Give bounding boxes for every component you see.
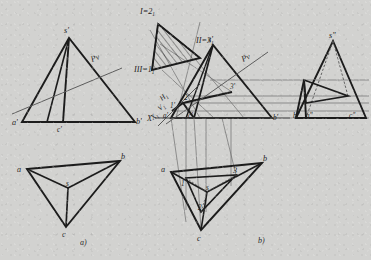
label-2-prime: 2' [184, 94, 190, 102]
label-b-prime-a: b' [136, 117, 142, 126]
label-b-top-b: b [263, 154, 267, 163]
label-s-doubleprime: s" [329, 31, 336, 40]
label-c-top-b: c [197, 234, 201, 243]
technical-drawing-figure: s' a' b' c' Pv a b c s a) [0, 0, 371, 260]
descriptive-geometry-drawing: s' a' b' c' Pv a b c s a) [0, 0, 371, 260]
label-a-prime-a: a' [12, 118, 18, 127]
label-c-doubleprime: c" [349, 112, 356, 120]
label-a-doubleprime: a" [306, 112, 314, 120]
label-s-top-a: s [66, 180, 69, 188]
label-1-top: 1 [181, 180, 185, 188]
label-c-prime-a: c' [57, 126, 62, 134]
label-b-prime-b: b' [273, 114, 279, 122]
label-a-top-a: a [17, 165, 21, 174]
label-aux-III-1: III=11 [133, 65, 155, 75]
label-2-top: 2 [198, 204, 202, 212]
label-s-prime-b: s' [208, 35, 213, 44]
caption-b: b) [258, 236, 265, 245]
label-3-prime: 3' [229, 83, 236, 91]
label-c-top-a: c [62, 230, 66, 239]
label-s-top-b: s [206, 184, 209, 192]
label-b-doubleprime: b" [293, 112, 301, 120]
label-s-prime-a: s' [64, 26, 69, 35]
label-a-top-b: a [161, 165, 165, 174]
label-c-prime-b: c' [188, 112, 193, 120]
label-3-top: 3 [232, 166, 237, 175]
label-a-prime-b: a' [163, 112, 169, 120]
caption-a: a) [80, 238, 87, 247]
label-1-prime: 1' [170, 102, 176, 110]
label-b-top-a: b [121, 152, 125, 161]
paper-background [0, 0, 371, 260]
